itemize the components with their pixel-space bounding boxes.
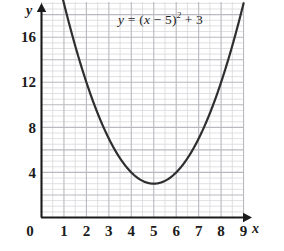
x-tick-label: 5 <box>150 223 158 239</box>
y-axis-name: y <box>24 3 33 18</box>
equation-eq: = ( <box>124 12 144 27</box>
parabola-curve <box>55 0 244 184</box>
x-tick-label: 4 <box>128 223 136 239</box>
x-tick-label: 6 <box>172 223 180 239</box>
x-tick-label: 7 <box>195 223 203 239</box>
x-tick-labels: 123456789 <box>60 223 247 239</box>
x-tick-label: 3 <box>105 223 113 239</box>
x-tick-label: 1 <box>60 223 68 239</box>
x-axis-name: x <box>251 221 259 236</box>
equation-annotation: y = (x − 5)2 + 3 <box>118 10 203 28</box>
x-tick-label: 8 <box>217 223 225 239</box>
y-tick-label: 16 <box>21 29 37 45</box>
y-tick-label: 4 <box>29 165 37 181</box>
y-axis-arrow <box>37 3 46 12</box>
x-tick-label: 9 <box>240 223 248 239</box>
parabola-figure: 481216 123456789 0 x y y = (x − 5)2 + 3 <box>0 0 284 251</box>
equation-mid: − 5) <box>150 12 177 27</box>
y-tick-label: 12 <box>21 74 36 90</box>
y-tick-label: 8 <box>29 120 37 136</box>
x-tick-label: 2 <box>83 223 91 239</box>
chart-canvas: 481216 123456789 0 x y <box>0 0 284 251</box>
equation-tail: + 3 <box>181 12 203 27</box>
origin-label: 0 <box>26 223 34 239</box>
x-axis-arrow <box>243 213 252 222</box>
y-tick-labels: 481216 <box>21 29 37 180</box>
